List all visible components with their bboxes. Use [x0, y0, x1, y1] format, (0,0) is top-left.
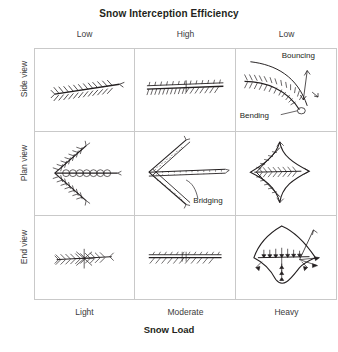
- cell-side-view-heavy: Bouncing Bending: [236, 49, 336, 132]
- annotation-bridging: Bridging: [193, 196, 222, 205]
- cell-end-view-moderate: [135, 216, 235, 299]
- cell-plan-view-heavy: [236, 132, 336, 215]
- annotation-bending: Bending: [240, 111, 269, 120]
- figure-title: Snow Interception Efficiency: [0, 8, 338, 19]
- cell-side-view-light: [35, 49, 135, 132]
- row-label-plan-view: Plan view: [19, 121, 29, 205]
- annotation-bouncing: Bouncing: [282, 51, 315, 60]
- row-label-end-view: End view: [19, 205, 29, 289]
- cell-end-view-light: [35, 216, 135, 299]
- column-header-high: High: [135, 29, 236, 39]
- cell-side-view-moderate: [135, 49, 235, 132]
- row-label-side-view: Side view: [19, 37, 29, 121]
- column-footer-light: Light: [34, 307, 135, 317]
- matrix-grid: Bouncing Bending: [34, 48, 337, 300]
- column-header-low-1: Low: [34, 29, 135, 39]
- column-footer-moderate: Moderate: [135, 307, 236, 317]
- cell-plan-view-moderate: Bridging: [135, 132, 235, 215]
- cell-plan-view-light: [35, 132, 135, 215]
- cell-end-view-heavy: [236, 216, 336, 299]
- snow-interception-figure: Snow Interception Efficiency Low High Lo…: [0, 0, 338, 352]
- x-axis-title: Snow Load: [0, 324, 338, 335]
- column-header-low-2: Low: [236, 29, 337, 39]
- column-footer-heavy: Heavy: [236, 307, 337, 317]
